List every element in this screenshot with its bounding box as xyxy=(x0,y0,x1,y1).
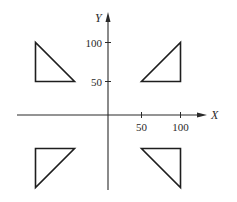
y-axis-arrowhead xyxy=(106,12,111,22)
triangle-quadrant-1 xyxy=(142,43,181,82)
triangle-quadrant-2 xyxy=(36,43,75,82)
y-tick-label-50: 50 xyxy=(91,76,103,88)
coordinate-diagram: X Y 5010050100 xyxy=(0,0,237,202)
x-tick-label-50: 50 xyxy=(136,121,148,133)
x-axis-arrowhead xyxy=(197,113,207,118)
x-tick-label-100: 100 xyxy=(172,121,189,133)
triangle-quadrant-4 xyxy=(142,149,181,188)
ticks: 5010050100 xyxy=(86,37,190,134)
y-tick-label-100: 100 xyxy=(86,37,103,49)
axes: X Y xyxy=(17,11,219,190)
y-axis-label: Y xyxy=(95,11,103,25)
x-axis-label: X xyxy=(210,108,219,122)
triangle-quadrant-3 xyxy=(36,149,75,188)
